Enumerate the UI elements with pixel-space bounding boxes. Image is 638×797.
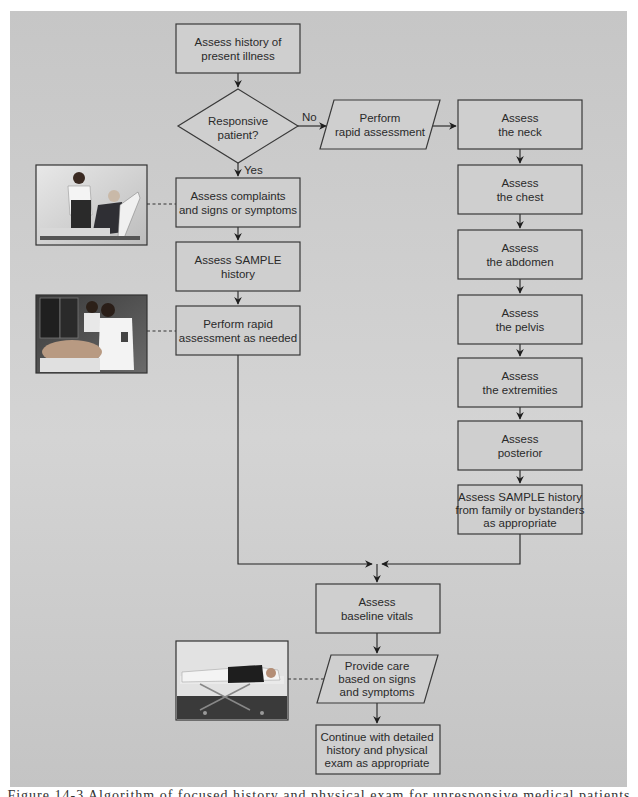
node-assess-complaints: Assess complaints and signs or symptoms (176, 178, 300, 227)
node-label: history (221, 268, 255, 280)
node-label: Provide care (345, 660, 410, 672)
node-assess-history-present-illness: Assess history of present illness (176, 24, 300, 73)
decision-label: Responsive (208, 115, 268, 127)
node-label: present illness (201, 50, 275, 62)
node-label: Assess SAMPLE (195, 254, 282, 266)
node-label: history and physical (327, 744, 428, 756)
node-label: baseline vitals (341, 610, 413, 622)
node-assess-chest: Assess the chest (458, 165, 582, 214)
flowchart-figure: Assess history of present illness Respon… (0, 0, 638, 797)
node-assess-baseline-vitals: Assess baseline vitals (316, 584, 440, 633)
node-label: Assess (501, 242, 538, 254)
photo-patient-on-stretcher (176, 641, 288, 720)
node-label: the neck (498, 126, 542, 138)
node-label: based on signs (338, 673, 416, 685)
decision-label: patient? (218, 129, 259, 141)
node-label: and symptoms (340, 686, 415, 698)
node-label: Assess (501, 370, 538, 382)
node-assess-sample-family: Assess SAMPLE history from family or bys… (455, 485, 584, 534)
node-assess-neck: Assess the neck (458, 100, 582, 149)
node-label: Perform rapid (203, 318, 273, 330)
node-assess-sample-history: Assess SAMPLE history (176, 242, 300, 291)
node-label: Assess (501, 112, 538, 124)
node-rapid-assessment-as-needed: Perform rapid assessment as needed (176, 306, 300, 355)
node-label: Assess (501, 433, 538, 445)
photo-emt-talking-to-patient (36, 165, 147, 245)
node-label: Assess SAMPLE history (458, 491, 582, 503)
edge-label-no: No (302, 111, 317, 123)
node-continue-detailed-exam: Continue with detailed history and physi… (316, 725, 440, 774)
node-assess-extremities: Assess the extremities (458, 358, 582, 407)
node-label: rapid assessment (335, 126, 426, 138)
node-assess-pelvis: Assess the pelvis (458, 295, 582, 344)
node-label: and signs or symptoms (179, 204, 297, 216)
node-label: posterior (498, 447, 543, 459)
node-label: from family or bystanders (455, 504, 584, 516)
node-label: Assess (501, 177, 538, 189)
edge-label-yes: Yes (244, 164, 263, 176)
node-perform-rapid-assessment: Perform rapid assessment (320, 100, 440, 149)
node-provide-care: Provide care based on signs and symptoms (317, 655, 438, 703)
node-label: Assess (358, 596, 395, 608)
photo-emts-assessing-patient (36, 295, 147, 373)
node-assess-posterior: Assess posterior (458, 421, 582, 470)
figure-caption-cropped: Figure 14-3 Algorithm of focused history… (0, 789, 638, 797)
node-label: Assess (501, 307, 538, 319)
node-assess-abdomen: Assess the abdomen (458, 230, 582, 279)
node-label: Perform (360, 112, 401, 124)
node-label: assessment as needed (179, 332, 297, 344)
node-label: the abdomen (486, 256, 553, 268)
node-label: as appropriate (483, 517, 557, 529)
node-label: the chest (497, 191, 544, 203)
node-label: Assess complaints (190, 190, 285, 202)
node-label: Continue with detailed (320, 731, 433, 743)
node-label: exam as appropriate (325, 757, 430, 769)
caption-text: Figure 14-3 Algorithm of focused history… (0, 789, 638, 797)
node-label: Assess history of (195, 36, 283, 48)
node-label: the extremities (483, 384, 558, 396)
node-label: the pelvis (496, 321, 545, 333)
